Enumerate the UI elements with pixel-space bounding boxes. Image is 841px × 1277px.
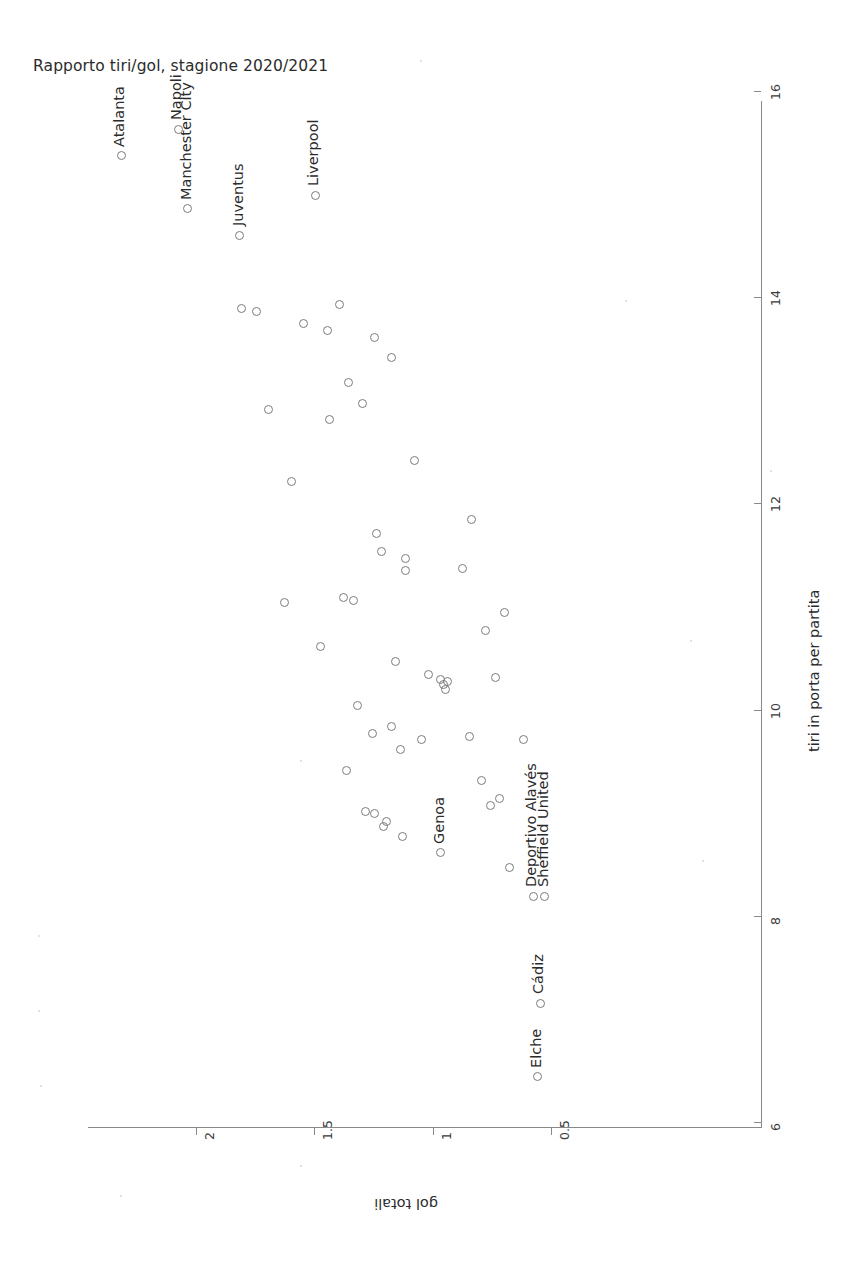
data-point [349, 596, 358, 605]
data-point [486, 801, 495, 810]
scan-speckle [300, 760, 302, 762]
data-point [323, 326, 332, 335]
data-point [401, 554, 410, 563]
data-point-labelled [536, 999, 545, 1008]
data-point [372, 529, 381, 538]
data-point-label: Sheffield United [535, 771, 551, 887]
data-point [465, 732, 474, 741]
data-point [481, 626, 490, 635]
scan-speckle [702, 860, 704, 862]
tiri-tick-label: 6 [768, 1123, 783, 1131]
data-point-labelled [311, 191, 320, 200]
data-point-labelled [117, 151, 126, 160]
data-point [339, 593, 348, 602]
tiri-axis-line [761, 101, 762, 1128]
tiri-tick [754, 503, 761, 504]
data-point [396, 745, 405, 754]
data-point [237, 304, 246, 313]
tiri-tick-label: 8 [768, 917, 783, 925]
gol-tick [314, 1128, 315, 1135]
data-point [287, 477, 296, 486]
data-point [519, 735, 528, 744]
data-point [335, 300, 344, 309]
data-point-label: Elche [528, 1028, 544, 1067]
data-point [377, 547, 386, 556]
data-point [342, 766, 351, 775]
data-point [410, 456, 419, 465]
data-point [391, 657, 400, 666]
data-point [379, 822, 388, 831]
scan-speckle [770, 470, 772, 472]
data-point-labelled [533, 1072, 542, 1081]
data-point [353, 701, 362, 710]
scan-speckle [420, 60, 422, 62]
scan-speckle [40, 1085, 42, 1087]
data-point [264, 405, 273, 414]
tiri-axis-title: tiri in porta per partita [806, 590, 822, 752]
data-point [505, 863, 514, 872]
data-point [358, 399, 367, 408]
data-point [252, 307, 261, 316]
gol-tick-label: 0.5 [557, 1120, 572, 1140]
data-point [401, 566, 410, 575]
scan-speckle [690, 640, 692, 642]
data-point [370, 809, 379, 818]
tiri-tick [754, 1122, 761, 1123]
tiri-tick-label: 12 [768, 496, 783, 512]
data-point [361, 807, 370, 816]
gol-axis-line [88, 1127, 762, 1128]
data-point [424, 670, 433, 679]
data-point [491, 673, 500, 682]
tiri-tick [754, 297, 761, 298]
data-point [387, 722, 396, 731]
data-point [500, 608, 509, 617]
data-point-label: Liverpool [305, 120, 321, 187]
scatter-plot-area: 6810121416 21.510.5 tiri in porta per pa… [0, 0, 841, 1277]
data-point-label: Cádiz [530, 955, 546, 995]
data-point-label: Juventus [230, 164, 246, 227]
data-point [280, 598, 289, 607]
gol-tick [433, 1128, 434, 1135]
data-point [387, 353, 396, 362]
data-point [458, 564, 467, 573]
gol-axis-title: gol totali [374, 1196, 438, 1212]
tiri-tick-label: 14 [768, 290, 783, 306]
data-point [344, 378, 353, 387]
data-point-labelled [235, 231, 244, 240]
data-point-label: Atalanta [111, 86, 127, 147]
scan-speckle [38, 1010, 40, 1012]
data-point-labelled [183, 204, 192, 213]
data-point-labelled [529, 892, 538, 901]
scan-speckle [38, 935, 40, 937]
data-point-labelled [436, 848, 445, 857]
scan-speckle [625, 300, 627, 302]
data-point [398, 832, 407, 841]
data-point [316, 642, 325, 651]
gol-tick [551, 1128, 552, 1135]
data-point [370, 333, 379, 342]
scan-speckle [120, 1195, 122, 1197]
data-point [299, 319, 308, 328]
gol-tick-label: 2 [202, 1132, 217, 1140]
data-point [495, 794, 504, 803]
gol-tick-label: 1.5 [320, 1120, 335, 1140]
data-point [477, 776, 486, 785]
data-point [417, 735, 426, 744]
tiri-tick [754, 710, 761, 711]
data-point [441, 685, 450, 694]
gol-tick [196, 1128, 197, 1135]
data-point [467, 515, 476, 524]
tiri-tick-label: 10 [768, 703, 783, 719]
scan-speckle [300, 1165, 302, 1167]
data-point-label: Manchester City [178, 82, 194, 200]
tiri-tick [754, 916, 761, 917]
data-point [368, 729, 377, 738]
gol-tick-label: 1 [439, 1132, 454, 1140]
tiri-tick-label: 16 [768, 84, 783, 100]
tiri-tick [754, 91, 761, 92]
data-point-label: Genoa [431, 797, 447, 844]
data-point-labelled [540, 892, 549, 901]
data-point [325, 415, 334, 424]
